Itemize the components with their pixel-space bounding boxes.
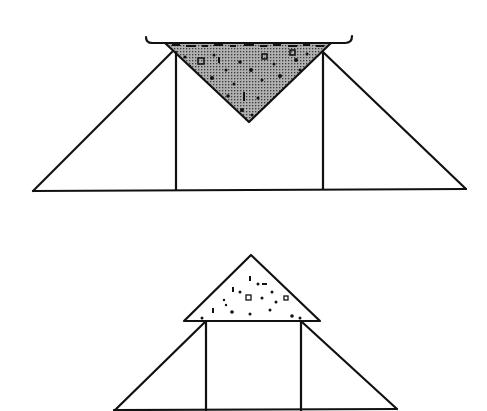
bottom-load-triangle (184, 255, 320, 321)
diagram-canvas (0, 0, 487, 411)
top-left-slope (33, 52, 172, 191)
top-right-slope (323, 52, 466, 189)
top-right-hook (331, 36, 352, 43)
top-base-line (33, 189, 466, 191)
bottom-left-slope (114, 322, 205, 411)
bottom-base-line (114, 409, 397, 410)
bottom-figure (114, 255, 397, 411)
top-left-hook (146, 37, 165, 43)
top-figure (33, 36, 466, 191)
bottom-right-slope (302, 322, 397, 409)
